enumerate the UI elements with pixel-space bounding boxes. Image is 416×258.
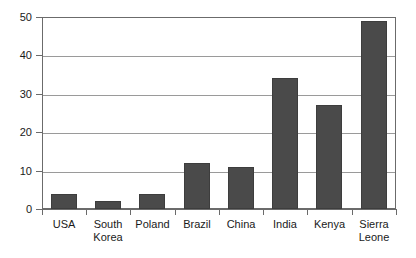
y-tick-20 (36, 132, 42, 133)
x-tick-5 (263, 209, 264, 215)
y-tick-label-10: 10 (4, 166, 32, 177)
x-label-china: China (219, 218, 263, 231)
y-tick-label-40: 40 (4, 50, 32, 61)
bar-sierra-leone[interactable] (361, 21, 387, 209)
bar-brazil[interactable] (184, 163, 210, 209)
y-tick-30 (36, 94, 42, 95)
x-label-south-korea: South Korea (86, 218, 130, 244)
bar-chart: 50 40 30 20 10 0 USA South Korea Poland … (0, 0, 416, 258)
x-tick-8 (396, 209, 397, 215)
x-tick-7 (352, 209, 353, 215)
bar-india[interactable] (272, 78, 298, 209)
x-tick-3 (175, 209, 176, 215)
y-tick-label-0: 0 (4, 204, 32, 215)
plot-area (42, 17, 396, 209)
bar-south-korea[interactable] (95, 201, 121, 209)
y-tick-label-20: 20 (4, 127, 32, 138)
x-tick-0 (42, 209, 43, 215)
y-tick-50 (36, 17, 42, 18)
x-label-brazil: Brazil (175, 218, 219, 231)
x-tick-2 (130, 209, 131, 215)
bar-kenya[interactable] (316, 105, 342, 209)
bar-usa[interactable] (51, 194, 77, 209)
y-tick-label-50: 50 (4, 12, 32, 23)
y-tick-40 (36, 55, 42, 56)
gridline-20 (43, 133, 395, 134)
y-tick-label-30: 30 (4, 89, 32, 100)
gridline-40 (43, 56, 395, 57)
x-tick-4 (219, 209, 220, 215)
x-label-kenya: Kenya (307, 218, 352, 231)
x-tick-6 (307, 209, 308, 215)
gridline-10 (43, 172, 395, 173)
gridline-30 (43, 95, 395, 96)
x-label-usa: USA (42, 218, 86, 231)
x-label-sierra-leone: Sierra Leone (352, 218, 396, 244)
x-label-india: India (263, 218, 307, 231)
bar-poland[interactable] (139, 194, 165, 209)
x-tick-1 (86, 209, 87, 215)
y-axis-line (42, 17, 43, 209)
x-label-poland: Poland (130, 218, 175, 231)
y-tick-10 (36, 171, 42, 172)
bar-china[interactable] (228, 167, 254, 209)
